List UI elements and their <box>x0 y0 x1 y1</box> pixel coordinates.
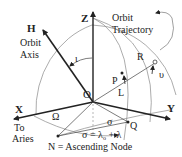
sigma-arc-label: σ <box>107 116 113 127</box>
orbit-trajectory-arrow <box>156 12 174 50</box>
sigma-formula: σ = λo + λ <box>82 129 122 141</box>
y-axis <box>93 102 170 119</box>
y-axis-label: Y <box>167 102 175 114</box>
sphere-outline <box>36 25 176 115</box>
orbit-diagram-svg: Z H Orbit Axis ι Orbit Trajectory R υ P … <box>0 0 182 157</box>
x-axis-label: X <box>15 103 23 115</box>
h-vector-label: H <box>27 22 36 34</box>
p-point-label: P <box>112 75 118 86</box>
point-p <box>121 72 124 75</box>
inclination-label: ι <box>75 53 78 64</box>
l-label: L <box>118 87 124 98</box>
orbit-axis-label-2: Axis <box>20 49 39 60</box>
orbit-trajectory-label-2: Trajectory <box>112 24 153 35</box>
arrow-upsilon <box>152 66 153 74</box>
to-aries-label-2: Aries <box>12 133 34 144</box>
origin-label: O <box>83 88 91 100</box>
ascending-node-caption: N = Ascending Node <box>48 141 133 152</box>
upsilon-label: υ <box>159 69 164 80</box>
orbit-diagram: Z H Orbit Axis ι Orbit Trajectory R υ P … <box>0 0 182 157</box>
point-r <box>153 60 157 64</box>
r-point-label: R <box>137 51 144 62</box>
orbit-axis-label-1: Orbit <box>20 37 41 48</box>
z-axis-label: Z <box>81 12 88 24</box>
point-n <box>57 135 60 138</box>
q-point-label: Q <box>130 120 138 131</box>
omega-label: Ω <box>52 111 59 122</box>
inclination-arc <box>70 58 92 66</box>
orbit-trajectory-label-1: Orbit <box>112 12 133 23</box>
to-aries-label-1: To <box>14 122 24 133</box>
